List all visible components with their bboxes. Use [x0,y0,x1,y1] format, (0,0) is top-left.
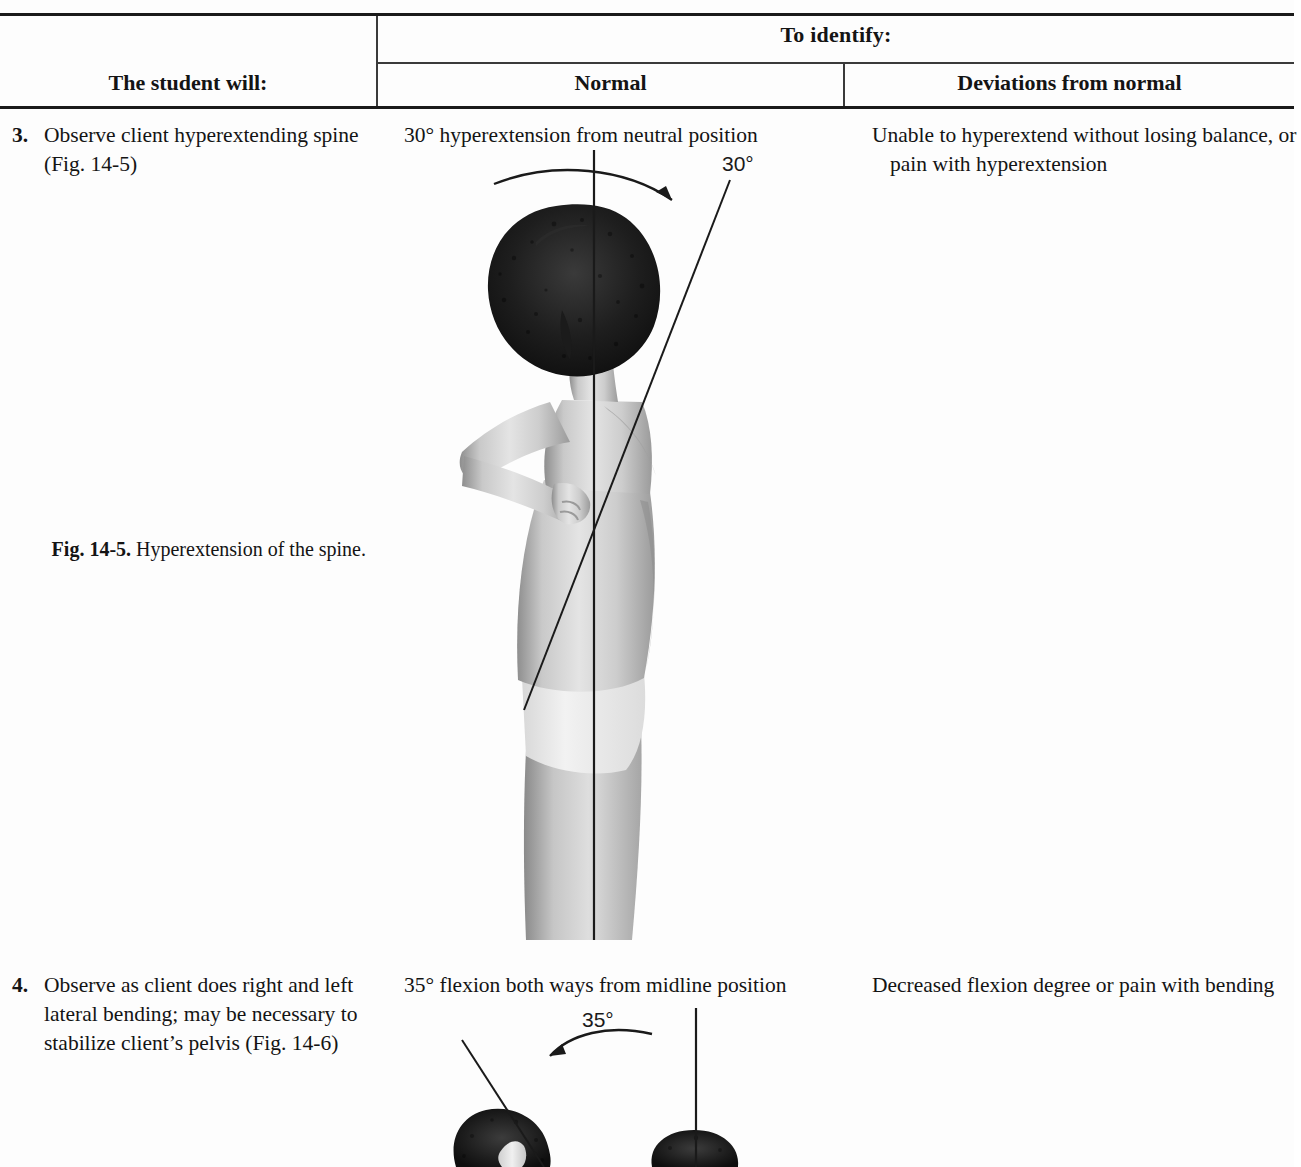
figure-14-5-caption-text: Hyperextension of the spine. [136,538,366,560]
table-row-3-deviations: Unable to hyperextend without losing bal… [872,121,1301,179]
figure-14-6-image [404,1000,874,1167]
table-middle-rule [376,62,1294,64]
row-number: 4. [12,971,28,1000]
table-header-bottom-rule [0,106,1294,109]
figure-14-6-angle-label: 35° [582,1008,614,1032]
row-number: 3. [12,121,28,150]
figure-14-5-caption-label: Fig. 14-5. [52,538,131,560]
row-task-text: Observe client hyperextending spine (Fig… [44,121,362,179]
header-to-identify: To identify: [378,22,1294,48]
table-top-rule [0,13,1294,16]
row-task-text: Observe as client does right and left la… [44,971,362,1058]
table-row-4-normal: 35° flexion both ways from midline posit… [404,971,844,1000]
table-row-4-deviations: Decreased flexion degree or pain with be… [872,971,1301,1000]
figure-14-5-image [404,150,864,940]
figure-14-5-angle-label: 30° [722,152,754,176]
header-deviations-from-normal: Deviations from normal [845,70,1294,96]
figure-14-5-caption: Fig. 14-5. Hyperextension of the spine. [0,536,366,562]
table-row-4-task: 4. Observe as client does right and left… [12,971,362,1058]
table-row-3-task: 3. Observe client hyperextending spine (… [12,121,362,179]
header-the-student-will: The student will: [0,70,376,96]
table-row-3-normal: 30° hyperextension from neutral position [404,121,844,150]
header-normal: Normal [378,70,843,96]
